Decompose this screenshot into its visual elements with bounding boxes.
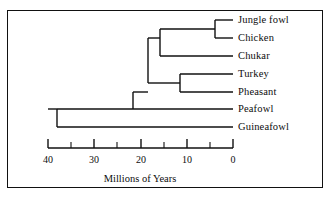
tree-drawing bbox=[0, 0, 332, 197]
axis-tick-label-30: 30 bbox=[89, 155, 99, 165]
taxon-label-guineafowl: Guineafowl bbox=[238, 122, 289, 133]
axis-tick-label-0: 0 bbox=[231, 155, 236, 165]
taxon-label-jungle-fowl: Jungle fowl bbox=[238, 15, 289, 26]
phylogenetic-tree-figure: Jungle fowl Chicken Chukar Turkey Pheasa… bbox=[0, 0, 332, 197]
taxon-label-chukar: Chukar bbox=[238, 51, 270, 62]
taxon-label-peafowl: Peafowl bbox=[238, 104, 273, 115]
axis-tick-label-40: 40 bbox=[43, 155, 53, 165]
axis-tick-label-10: 10 bbox=[182, 155, 192, 165]
axis-title: Millions of Years bbox=[104, 174, 177, 185]
taxon-label-turkey: Turkey bbox=[238, 69, 269, 80]
taxon-label-pheasant: Pheasant bbox=[238, 87, 277, 98]
taxon-label-chicken: Chicken bbox=[238, 33, 274, 44]
axis-tick-label-20: 20 bbox=[136, 155, 146, 165]
